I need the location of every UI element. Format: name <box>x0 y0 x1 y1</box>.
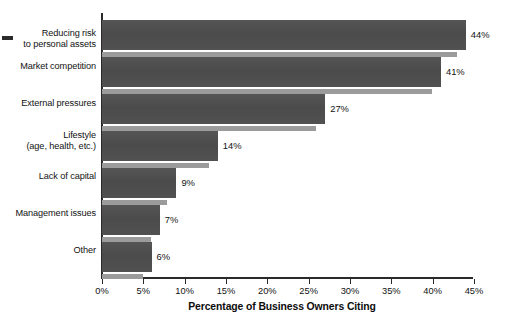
bar-group: 9% <box>102 168 216 205</box>
category-label-1: Market competition <box>0 61 96 72</box>
x-tick <box>474 279 475 284</box>
bar-value-label: 41% <box>446 67 465 77</box>
bar-group: 41% <box>102 57 481 94</box>
category-label-3-line1: Lifestyle <box>0 130 96 141</box>
x-tick-label: 10% <box>175 286 194 297</box>
bar-value-label: 44% <box>471 30 490 40</box>
x-tick-label: 40% <box>423 286 442 297</box>
x-tick <box>391 279 392 284</box>
bar <box>102 168 176 198</box>
bar-chart: Reducing risk to personal assets Market … <box>0 0 508 321</box>
bar <box>102 94 325 124</box>
category-label-5: Management issues <box>0 208 96 219</box>
x-tick-label: 45% <box>465 286 484 297</box>
x-tick <box>309 279 310 284</box>
bar <box>102 131 218 161</box>
category-label-0-line1: Reducing risk <box>0 28 96 39</box>
x-tick-label: 30% <box>341 286 360 297</box>
bar-value-label: 7% <box>165 215 179 225</box>
x-tick-label: 0% <box>95 286 108 297</box>
bar-shadow <box>102 274 143 279</box>
bars-layer: 44%41%27%14%9%7%6% <box>102 13 474 277</box>
bar-value-label: 14% <box>223 141 242 151</box>
category-label-1-line1: Market competition <box>0 61 96 72</box>
x-tick <box>185 279 186 284</box>
x-tick <box>102 279 103 284</box>
bar <box>102 20 466 50</box>
category-label-2-line1: External pressures <box>0 98 96 109</box>
category-label-2: External pressures <box>0 98 96 109</box>
bar <box>102 242 152 272</box>
x-tick <box>350 279 351 284</box>
bar <box>102 205 160 235</box>
bar-group: 6% <box>102 242 192 279</box>
bar-group: 27% <box>102 94 365 131</box>
x-tick <box>433 279 434 284</box>
bar-value-label: 27% <box>330 104 349 114</box>
category-axis-labels: Reducing risk to personal assets Market … <box>0 13 96 277</box>
x-tick-label: 35% <box>382 286 401 297</box>
category-label-0: Reducing risk to personal assets <box>0 28 96 49</box>
category-label-3: Lifestyle (age, health, etc.) <box>0 130 96 151</box>
category-label-6-line1: Other <box>0 245 96 256</box>
bar-value-label: 6% <box>157 252 171 262</box>
category-label-6: Other <box>0 245 96 256</box>
x-axis-title: Percentage of Business Owners Citing <box>0 301 508 312</box>
bar <box>102 57 441 87</box>
x-tick <box>267 279 268 284</box>
x-tick-label: 15% <box>217 286 236 297</box>
bar-group: 7% <box>102 205 200 242</box>
category-label-3-line2: (age, health, etc.) <box>0 141 96 152</box>
x-tick-label: 25% <box>299 286 318 297</box>
category-label-4: Lack of capital <box>0 171 96 182</box>
bar-group: 14% <box>102 131 258 168</box>
category-label-0-line2: to personal assets <box>0 39 96 50</box>
bar-value-label: 9% <box>181 178 195 188</box>
bar-group: 44% <box>102 20 506 57</box>
x-tick <box>143 279 144 284</box>
category-label-4-line1: Lack of capital <box>0 171 96 182</box>
x-tick <box>226 279 227 284</box>
x-tick-label: 5% <box>137 286 150 297</box>
x-tick-label: 20% <box>258 286 277 297</box>
category-label-5-line1: Management issues <box>0 208 96 219</box>
